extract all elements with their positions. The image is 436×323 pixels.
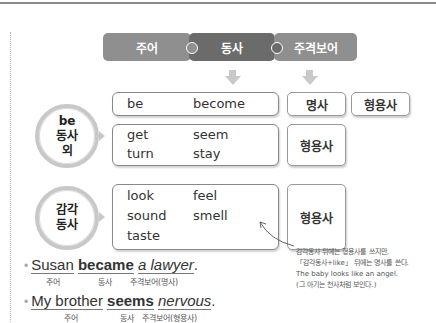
circle-line: 외 xyxy=(62,144,73,159)
pill-subject: 주어 xyxy=(103,33,191,61)
note-line: 「감각동사+like」 뒤에는 명사를 쓴다. xyxy=(296,258,409,269)
circle-line: 감각 xyxy=(56,203,78,218)
complement-tag-adjective: 형용사 xyxy=(351,92,410,116)
pill-subject-label: 주어 xyxy=(136,39,158,56)
verb-word: became xyxy=(78,256,134,274)
down-arrow-icon xyxy=(302,76,318,85)
verb-box-get-seem-turn-stay: get seem turn stay xyxy=(112,124,279,166)
circle-line: 동사 xyxy=(56,129,78,144)
pill-verb: 동사 xyxy=(189,33,275,61)
example-sentence-1: •Susan became a lawyer. xyxy=(24,256,198,273)
verb-word: turn xyxy=(127,146,154,161)
verb-word: stay xyxy=(193,146,221,161)
complement-tag-adjective: 형용사 xyxy=(287,124,346,166)
verb-word: sound xyxy=(127,208,166,223)
label-subject: 주어 xyxy=(46,276,60,287)
label-complement: 주격보어(명사) xyxy=(130,276,178,287)
period: . xyxy=(194,256,198,273)
puzzle-knob-1 xyxy=(186,42,198,54)
label-verb: 동사 xyxy=(120,312,134,323)
note-line: (그 아기는 천사처럼 보인다.) xyxy=(296,280,409,291)
down-arrow-icon xyxy=(225,76,241,85)
label-subject: 주어 xyxy=(64,312,78,323)
circle-line: be xyxy=(59,114,76,129)
note-line: The baby looks like an angel. xyxy=(296,269,409,280)
pill-complement-label: 주격보어 xyxy=(294,39,338,56)
circle-line: 동사 xyxy=(56,218,78,233)
pill-verb-label: 동사 xyxy=(221,39,243,56)
label-complement: 주격보어(형용사) xyxy=(142,312,197,323)
verb-word: be xyxy=(127,96,143,111)
verb-word: get xyxy=(127,127,148,142)
pill-subject-complement: 주격보어 xyxy=(274,33,357,61)
bullet: • xyxy=(24,259,28,273)
verb-word: seem xyxy=(193,127,228,142)
complement-word: nervous xyxy=(158,292,211,310)
top-rule xyxy=(0,2,436,4)
label-verb: 동사 xyxy=(98,276,112,287)
handwritten-note: 감각동사 뒤에는 형용사를 쓰지만, 「감각동사+like」 뒤에는 명사를 쓴… xyxy=(296,247,409,291)
tag-label: 형용사 xyxy=(300,137,333,154)
group-circle-sense-verbs: 감각 동사 xyxy=(35,186,99,250)
tag-label: 형용사 xyxy=(300,209,333,226)
verb-word: smell xyxy=(193,208,228,223)
verb-word: become xyxy=(193,96,245,111)
note-line: 감각동사 뒤에는 형용사를 쓰지만, xyxy=(296,247,409,258)
circle-pointer xyxy=(99,131,105,141)
bullet: • xyxy=(24,295,28,309)
verb-word: look xyxy=(127,188,154,203)
verb-word: taste xyxy=(127,228,160,243)
tag-label: 명사 xyxy=(306,96,328,113)
verb-box-sense-verbs: look feel sound smell taste xyxy=(112,184,279,250)
subject-word: Susan xyxy=(31,256,74,274)
verb-word: feel xyxy=(193,188,217,203)
example-sentence-2: •My brother seems nervous. xyxy=(24,292,216,309)
tag-label: 형용사 xyxy=(364,96,397,113)
circle-pointer xyxy=(99,212,105,222)
complement-word: a lawyer xyxy=(138,256,194,274)
complement-tag-noun: 명사 xyxy=(287,92,346,116)
verb-box-be-become: be become xyxy=(112,92,279,116)
callout-curve-icon xyxy=(258,220,298,250)
subject-word: My brother xyxy=(31,292,103,310)
period: . xyxy=(211,292,215,309)
verb-word: seems xyxy=(107,292,154,310)
group-circle-be-verbs: be 동사 외 xyxy=(35,104,99,168)
margin-dotted-line xyxy=(10,32,11,322)
puzzle-knob-2 xyxy=(271,42,283,54)
